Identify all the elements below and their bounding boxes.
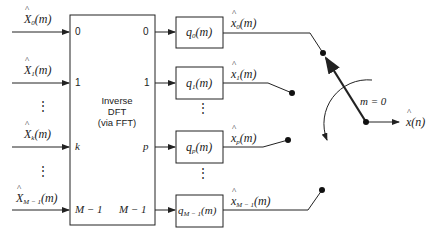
dft-in-port-1: 1 [75, 78, 81, 88]
diagram-lines [0, 0, 435, 233]
dft-out-port-1: 1 [144, 78, 150, 88]
dft-in-port-m1: M − 1 [75, 204, 103, 215]
ellipsis-filters-1: ⋮ [197, 102, 209, 114]
filter-label-m1: qM − 1(m) [178, 205, 216, 218]
ellipsis-inputs-1: ⋮ [37, 100, 49, 112]
filter-output-label-p: xp(m) [231, 132, 257, 146]
input-label-0: X0(m) [24, 13, 52, 27]
ellipsis-filters-2: ⋮ [197, 167, 209, 179]
input-label-m1: XM − 1(m) [16, 192, 58, 206]
dft-out-port-m1: M − 1 [119, 204, 147, 215]
filter-label-1: q1(m) [186, 77, 212, 91]
dft-in-port-k: k [75, 141, 80, 152]
dft-in-port-0: 0 [75, 27, 81, 37]
filter-output-label-m1: xM − 1(m) [231, 195, 271, 209]
input-label-k: Xk(m) [24, 128, 51, 142]
ellipsis-inputs-2: ⋮ [37, 165, 49, 177]
commutator-label: m = 0 [360, 96, 386, 107]
dft-out-port-0: 0 [143, 27, 149, 37]
input-label-1: X1(m) [24, 64, 52, 78]
output-label: x(n) [406, 116, 425, 128]
dft-out-port-p: p [143, 141, 149, 152]
filter-output-label-0: x0(m) [231, 17, 257, 31]
filter-label-0: q0(m) [186, 26, 212, 40]
filter-output-label-1: x1(m) [231, 68, 257, 82]
filter-label-p: qp(m) [186, 141, 212, 155]
dft-block-title: Inverse DFT (via FFT) [97, 95, 137, 128]
